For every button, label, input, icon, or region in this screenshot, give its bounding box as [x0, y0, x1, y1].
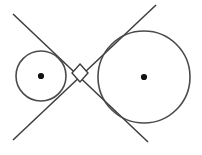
large-circle-center-point — [141, 74, 147, 80]
figure-background — [0, 0, 202, 155]
geometry-figure — [0, 0, 202, 155]
small-circle-center-point — [38, 73, 44, 79]
figure-canvas — [0, 0, 202, 155]
